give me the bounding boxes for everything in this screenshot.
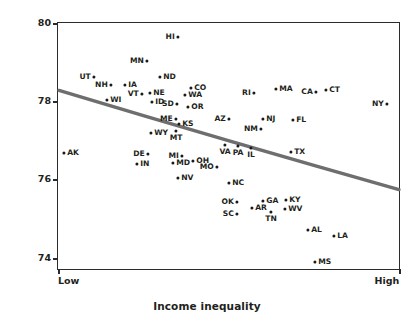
- data-point-label: AL: [311, 226, 322, 234]
- data-point-label: WI: [110, 96, 121, 104]
- data-point: [174, 117, 177, 120]
- data-point: [235, 200, 238, 203]
- data-point-label: IA: [128, 81, 137, 89]
- data-point-label: KS: [182, 120, 193, 128]
- data-point: [146, 152, 149, 155]
- data-point-label: AZ: [214, 115, 225, 123]
- data-point-label: PA: [233, 149, 244, 157]
- data-point-label: UT: [79, 73, 90, 81]
- data-point-label: TX: [294, 148, 305, 156]
- data-point: [135, 162, 138, 165]
- data-point-label: NJ: [266, 115, 275, 123]
- data-point-label: LA: [337, 232, 348, 240]
- data-point: [227, 117, 230, 120]
- data-point: [324, 88, 327, 91]
- data-point-label: CA: [301, 88, 312, 96]
- data-point: [176, 176, 179, 179]
- data-point-label: NY: [372, 100, 384, 108]
- data-point: [252, 91, 255, 94]
- data-point: [223, 143, 226, 146]
- data-point: [123, 83, 126, 86]
- data-point-label: DE: [133, 150, 145, 158]
- data-point: [215, 165, 218, 168]
- data-point: [140, 92, 143, 95]
- data-point: [171, 161, 174, 164]
- data-point-label: NC: [232, 179, 244, 187]
- data-point: [191, 159, 194, 162]
- data-point: [177, 122, 180, 125]
- data-point: [105, 98, 108, 101]
- data-point-label: WV: [288, 205, 302, 213]
- data-point-label: KY: [289, 196, 300, 204]
- data-point: [150, 100, 153, 103]
- data-point-label: MS: [318, 258, 331, 266]
- data-point: [284, 198, 287, 201]
- data-point-label: ME: [160, 115, 173, 123]
- data-point-label: GA: [266, 197, 278, 205]
- data-point-label: IN: [140, 160, 149, 168]
- data-point: [174, 129, 177, 132]
- data-point-label: WY: [154, 129, 168, 137]
- data-point: [62, 151, 65, 154]
- data-point: [149, 131, 152, 134]
- x-axis-tick-label: High: [375, 276, 400, 286]
- data-point-label: IL: [247, 151, 255, 159]
- data-point-label: MO: [200, 163, 214, 171]
- data-point: [148, 91, 151, 94]
- data-point: [183, 93, 186, 96]
- data-point-label: SD: [162, 100, 174, 108]
- data-point-label: NM: [244, 125, 258, 133]
- data-point: [180, 154, 183, 157]
- data-point: [227, 181, 230, 184]
- data-point: [274, 87, 277, 90]
- scatter-plot-figure: Life expectancy (years) HIMNUTNDNHIACOMA…: [0, 0, 414, 318]
- data-point-label: MD: [176, 159, 190, 167]
- data-point: [235, 212, 238, 215]
- data-point-label: HI: [166, 33, 175, 41]
- y-axis-tick-label: 78: [38, 96, 51, 106]
- data-point: [92, 75, 95, 78]
- data-point: [332, 234, 335, 237]
- data-point-label: NE: [153, 89, 165, 97]
- data-point-label: MA: [279, 85, 292, 93]
- x-axis-tick-mark: [58, 269, 60, 274]
- data-point-label: TN: [265, 215, 277, 223]
- data-point: [186, 105, 189, 108]
- plot-area: HIMNUTNDNHIACOMACACTVTNEWARIWIIDSDNYORME…: [57, 22, 400, 270]
- data-point: [249, 146, 252, 149]
- data-point: [291, 118, 294, 121]
- data-point: [250, 206, 253, 209]
- data-point-label: WA: [188, 91, 202, 99]
- y-axis-tick-label: 74: [38, 253, 51, 263]
- x-axis-title: Income inequality: [0, 300, 414, 312]
- data-point: [109, 83, 112, 86]
- y-axis-tick-label: 80: [38, 18, 51, 28]
- data-point: [261, 117, 264, 120]
- y-axis-tick-mark: [53, 101, 58, 103]
- data-point: [175, 102, 178, 105]
- data-point-label: FL: [296, 116, 306, 124]
- data-point: [236, 144, 239, 147]
- data-point: [269, 210, 272, 213]
- y-axis-tick-mark: [53, 258, 58, 260]
- data-point-label: NH: [95, 81, 108, 89]
- data-point-label: AK: [67, 149, 79, 157]
- y-axis-tick-mark: [53, 179, 58, 181]
- data-point-label: MT: [170, 134, 183, 142]
- y-axis-tick-label: 76: [38, 174, 51, 184]
- data-point-label: ND: [163, 73, 176, 81]
- data-point-label: VA: [219, 148, 230, 156]
- data-point-label: AR: [255, 204, 267, 212]
- data-point-label: OR: [191, 103, 203, 111]
- x-axis-tick-label: Low: [58, 276, 79, 286]
- data-point: [158, 75, 161, 78]
- data-point-label: OK: [221, 198, 233, 206]
- y-axis-tick-mark: [53, 23, 58, 25]
- data-point-label: SC: [223, 210, 234, 218]
- x-axis-tick-mark: [399, 269, 401, 274]
- data-point: [189, 86, 192, 89]
- data-point: [145, 59, 148, 62]
- data-point: [261, 199, 264, 202]
- data-point-label: VT: [128, 90, 139, 98]
- data-point: [176, 35, 179, 38]
